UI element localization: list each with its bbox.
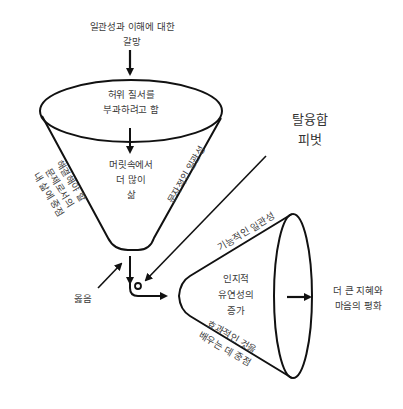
funnel-top-label-line1: 허위 질서를 bbox=[80, 87, 182, 102]
rightness-label: 옳음 bbox=[68, 291, 98, 306]
outcome-label-line2: 마음의 평화 bbox=[322, 298, 394, 313]
funnel-inner-label-line3: 삶 bbox=[90, 187, 172, 202]
defusion-pivot-label: 탈융합 피벗 bbox=[282, 110, 338, 150]
funnel-top-label-line2: 부과하려고 함 bbox=[80, 102, 182, 117]
outcome-label-line1: 더 큰 지혜와 bbox=[322, 283, 394, 298]
desire-label-line2: 갈망 bbox=[70, 34, 194, 49]
desire-label: 일관성과 이해에 대한 갈망 bbox=[70, 19, 194, 49]
cone-inner-label: 인지적 유연성의 증가 bbox=[200, 271, 272, 319]
cone-inner-label-line2: 유연성의 bbox=[200, 287, 272, 303]
funnel-inner-label-line2: 더 많이 bbox=[90, 172, 172, 187]
pivot-arrow bbox=[130, 256, 166, 296]
defusion-pivot-label-line2: 피벗 bbox=[282, 130, 338, 150]
rightness-pointer-line bbox=[98, 264, 121, 288]
funnel-inner-label: 머릿속에서 더 많이 삶 bbox=[90, 157, 172, 202]
defusion-pivot-label-line1: 탈융합 bbox=[282, 110, 338, 130]
pivot-point bbox=[135, 283, 141, 289]
funnel-inner-label-line1: 머릿속에서 bbox=[90, 157, 172, 172]
desire-label-line1: 일관성과 이해에 대한 bbox=[70, 19, 194, 34]
outcome-label: 더 큰 지혜와 마음의 평화 bbox=[322, 283, 394, 313]
funnel-top-label: 허위 질서를 부과하려고 함 bbox=[80, 87, 182, 117]
cone-inner-label-line1: 인지적 bbox=[200, 271, 272, 287]
